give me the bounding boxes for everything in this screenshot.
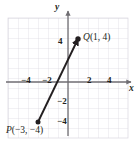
point-label-P: P(−3, −4) [6,126,43,136]
x-tick-label-neg4: −4 [21,76,31,85]
x-tick-label-2: 2 [87,76,92,85]
point-marker-Q [75,36,80,41]
graph-canvas [0,0,140,141]
y-axis-label: y [55,3,59,13]
x-tick-label-neg2: −2 [42,76,52,85]
y-tick-label-neg4: −4 [57,117,67,126]
y-tick-label-4: 4 [58,37,63,46]
coordinate-plane-figure: y x −4 −2 2 4 4 −2 −4 Q(1, 4) P(−3, −4) [0,0,140,141]
point-label-Q-letter: Q [83,32,90,42]
x-axis-label: x [129,84,134,94]
y-tick-label-neg2: −2 [57,97,67,106]
x-tick-label-4: 4 [107,76,112,85]
point-label-Q: Q(1, 4) [83,33,110,43]
point-label-Q-coords: (1, 4) [90,32,111,42]
point-label-P-coords: (−3, −4) [12,125,43,135]
point-marker-P [36,120,41,125]
